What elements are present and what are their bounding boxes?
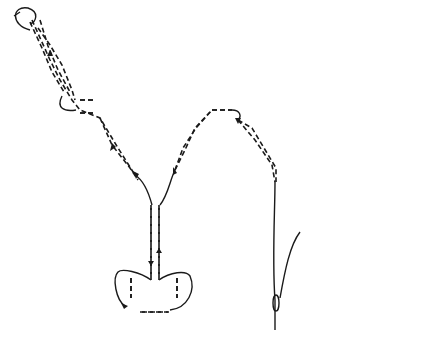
thread-overlay [30, 20, 276, 312]
thread-path [14, 8, 300, 330]
beading-diagram [0, 0, 440, 337]
